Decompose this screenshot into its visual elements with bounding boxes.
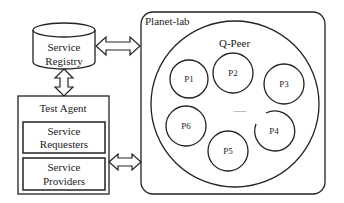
- q-peer-network: Q-Peer: [151, 21, 319, 187]
- registry-planetlab-arrow-icon: [96, 37, 140, 55]
- test-agent-box: Test Agent Service Requesters Service Pr…: [18, 96, 109, 194]
- providers-planetlab-arrow-icon: [109, 154, 141, 170]
- peer-p4: P4: [255, 111, 295, 151]
- q-peer-title: Q-Peer: [219, 37, 250, 49]
- planet-lab-title: Planet-lab: [145, 15, 190, 27]
- peer-p3: P3: [264, 64, 304, 104]
- service-providers-line1: Service: [48, 161, 81, 173]
- peer-p4-label: P4: [269, 126, 279, 136]
- peer-p6-label: P6: [181, 121, 191, 131]
- peer-p5: P5: [208, 131, 248, 171]
- service-providers-box: Service Providers: [23, 158, 105, 190]
- service-registry-label-line1: Service: [48, 41, 81, 53]
- peer-p5-label: P5: [223, 146, 233, 156]
- service-requesters-line1: Service: [48, 125, 81, 137]
- service-providers-line2: Providers: [43, 175, 85, 187]
- service-registry-database: Service Registry: [33, 23, 95, 69]
- peer-p2-label: P2: [228, 68, 238, 78]
- registry-agent-arrow-icon: [55, 69, 73, 96]
- peer-p2: P2: [213, 53, 253, 93]
- peer-p1-label: P1: [184, 74, 194, 84]
- service-requesters-box: Service Requesters: [23, 122, 105, 153]
- service-requesters-line2: Requesters: [40, 138, 88, 150]
- test-agent-title: Test Agent: [39, 102, 86, 114]
- peer-p1: P1: [170, 60, 208, 98]
- peer-p3-label: P3: [279, 79, 289, 89]
- peer-p6: P6: [166, 106, 206, 146]
- service-registry-label-line2: Registry: [45, 55, 83, 67]
- architecture-diagram: Planet-lab Q-Peer P1 P2 P3 P4 P5 P6 ....…: [0, 0, 344, 203]
- more-peers-ellipsis: ......: [234, 105, 246, 114]
